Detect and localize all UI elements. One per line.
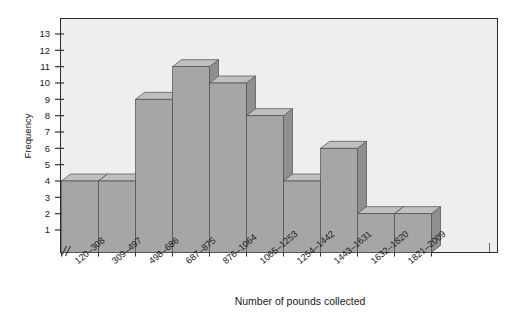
y-tick-label: 13: [39, 28, 50, 39]
chart-figure: 13121110987654321 120–308309–497498–6866…: [0, 0, 521, 327]
y-tick-label: 7: [45, 126, 50, 137]
y-tick-label: 5: [45, 159, 50, 170]
y-tick-label: 9: [45, 94, 50, 105]
bar-front-face: [136, 99, 173, 252]
y-tick-label: 10: [39, 77, 50, 88]
y-tick-label: 12: [39, 45, 50, 56]
bar-front-face: [173, 67, 210, 253]
bar-front-face: [210, 83, 247, 253]
histogram-chart: 13121110987654321 120–308309–497498–6866…: [0, 0, 521, 327]
y-tick-label: 2: [45, 208, 50, 219]
x-axis-title: Number of pounds collected: [235, 295, 366, 307]
y-tick-label: 3: [45, 192, 50, 203]
y-axis-title: Frequency: [22, 113, 33, 158]
y-tick-label: 6: [45, 143, 50, 154]
y-tick-label: 8: [45, 110, 50, 121]
y-tick-label: 1: [45, 224, 50, 235]
y-tick-label: 11: [40, 61, 50, 72]
y-tick-label: 4: [45, 175, 50, 186]
